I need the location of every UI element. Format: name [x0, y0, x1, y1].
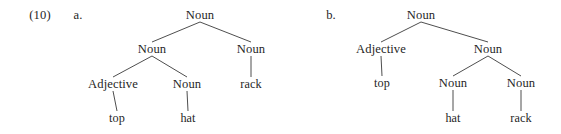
- syntax-tree-figure: (10) a.NounNounNounAdjectiveNountophatra…: [0, 0, 561, 134]
- tree-branch-b-root-to-b-n1: [421, 22, 488, 42]
- example-number: (10): [29, 9, 50, 22]
- tree-node-a-top: top: [109, 112, 125, 124]
- tree-node-b-root: Noun: [407, 9, 435, 22]
- tree-branch-a-root-to-a-n1: [152, 22, 200, 42]
- tree-branch-b-n1-to-b-n3: [488, 56, 521, 76]
- tree-node-b-rack: rack: [510, 112, 531, 124]
- tree-node-b-n3: Noun: [507, 77, 535, 90]
- tree-branch-b-root-to-b-adj: [381, 22, 421, 42]
- tree-node-a-n2: Noun: [237, 43, 265, 56]
- tree-branch-b-n1-to-b-n2: [453, 56, 488, 76]
- tree-node-a-n3: Noun: [173, 78, 201, 91]
- tree-node-a-hat: hat: [180, 112, 195, 124]
- tree-branch-a-n3-to-a-hat: [187, 91, 188, 111]
- tree-node-a-n1: Noun: [138, 43, 166, 56]
- tree-node-b-n2: Noun: [439, 77, 467, 90]
- subfigure-letter-a: a.: [74, 9, 83, 22]
- tree-node-b-hat: hat: [445, 112, 460, 124]
- tree-node-a-root: Noun: [186, 9, 214, 22]
- subfigure-letter-b: b.: [326, 9, 336, 22]
- tree-branch-b-adj-to-b-top: [381, 56, 382, 76]
- tree-branch-a-adj-to-a-top: [113, 91, 117, 111]
- tree-branch-a-n1-to-a-n3: [152, 56, 187, 77]
- tree-node-b-adj: Adjective: [356, 43, 406, 56]
- tree-node-b-n1: Noun: [474, 43, 502, 56]
- tree-node-a-adj: Adjective: [88, 78, 138, 91]
- tree-branch-a-root-to-a-n2: [200, 22, 251, 42]
- tree-branch-a-n1-to-a-adj: [113, 56, 152, 77]
- tree-node-b-top: top: [374, 77, 390, 89]
- tree-node-a-rack: rack: [240, 78, 261, 90]
- tree-branch-layer: [0, 0, 561, 134]
